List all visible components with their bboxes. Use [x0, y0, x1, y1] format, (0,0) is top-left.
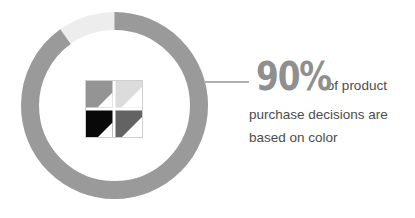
color-swatch-icon	[85, 80, 143, 138]
callout-block: 90%of product purchase decisions are bas…	[249, 57, 415, 149]
stat-suffix: of product	[327, 79, 387, 93]
swatch-bottom-left	[86, 111, 113, 138]
swatch-bottom-right	[116, 111, 143, 138]
stat-value: 90%	[256, 57, 331, 96]
callout-body-line-1: purchase decisions are	[249, 103, 415, 126]
leader-line	[204, 81, 249, 83]
color-swatch-svg	[85, 80, 143, 138]
infographic-root: 90%of product purchase decisions are bas…	[0, 0, 415, 218]
callout-body: purchase decisions are based on color	[249, 96, 415, 149]
swatch-top-right	[116, 81, 143, 108]
swatch-top-left	[86, 81, 113, 108]
callout-body-line-2: based on color	[249, 126, 415, 149]
callout-headline: 90%of product	[249, 57, 415, 96]
